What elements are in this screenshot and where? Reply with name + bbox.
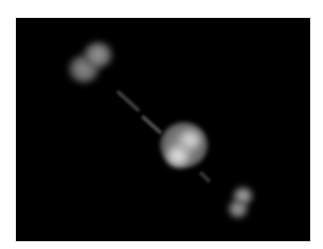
lower-right-blob-lobe-b bbox=[228, 200, 248, 218]
upper-left-blob-lobe-b bbox=[83, 42, 113, 68]
central-sphere-lobe-lower bbox=[166, 145, 190, 167]
connector-rod-lower bbox=[199, 171, 212, 184]
image-frame bbox=[15, 17, 311, 242]
connector-rod-upper bbox=[116, 90, 141, 113]
connector-rod-middle bbox=[141, 115, 163, 135]
